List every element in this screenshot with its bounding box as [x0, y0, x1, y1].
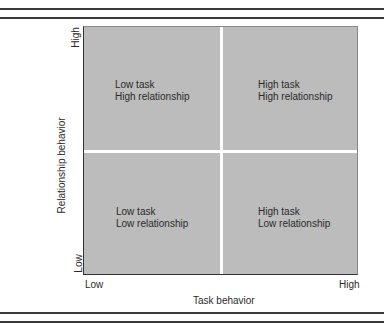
quadrant-label-relationship: Low relationship — [258, 218, 330, 230]
quadrant-bottom-right: High task Low relationship — [258, 206, 330, 230]
quadrant-top-right: High task High relationship — [258, 79, 333, 103]
quadrant-top-left: Low task High relationship — [115, 79, 190, 103]
matrix-plot: Low task High relationship High task Hig… — [83, 26, 358, 275]
x-axis-low-tick: Low — [85, 279, 103, 290]
bottom-rule-inner — [0, 321, 384, 323]
top-rule-inner — [0, 17, 384, 19]
quadrant-label-task: Low task — [115, 79, 190, 91]
quadrant-label-relationship: Low relationship — [116, 218, 188, 230]
quadrant-label-task: High task — [258, 79, 333, 91]
quadrant-label-relationship: High relationship — [115, 91, 190, 103]
bottom-rule-outer — [0, 312, 384, 314]
quadrant-label-task: High task — [258, 206, 330, 218]
y-axis-label: Relationship behavior — [56, 116, 67, 216]
quadrant-label-relationship: High relationship — [258, 91, 333, 103]
quadrant-bottom-left: Low task Low relationship — [116, 206, 188, 230]
top-rule-outer — [0, 8, 384, 10]
horizontal-divider — [84, 150, 357, 153]
x-axis-high-tick: High — [339, 279, 360, 290]
x-axis-label: Task behavior — [193, 295, 255, 306]
quadrant-label-task: Low task — [116, 206, 188, 218]
y-axis-high-tick: High — [70, 27, 81, 48]
